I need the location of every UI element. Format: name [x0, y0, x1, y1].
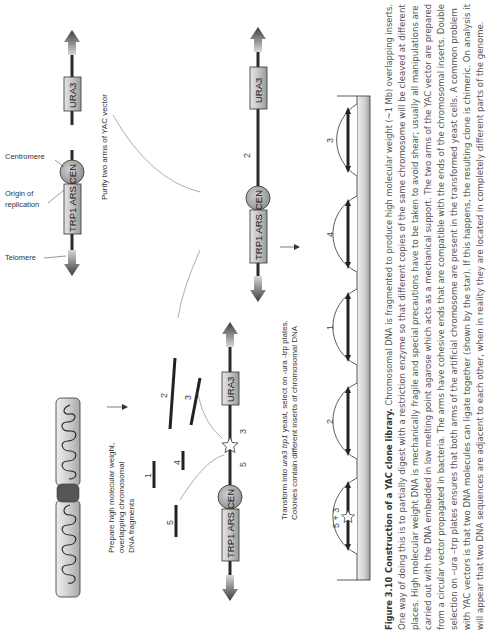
- svg-text:TRP1 ARS: TRP1 ARS: [253, 214, 264, 260]
- flow-curve: [198, 395, 222, 438]
- svg-text:3: 3: [238, 429, 248, 434]
- prepare-step-label: Prepare high molecular weight, overlappi…: [107, 443, 136, 553]
- colony: 4: [325, 196, 357, 272]
- caption-line-6: with YAC vectors is that two DNA molecul…: [462, 3, 472, 630]
- yac-vector-arms: URA3 CEN TRP1 ARS Centromere Origin of r…: [5, 30, 109, 276]
- caption-line-4: from a circular vector propagated in bac…: [436, 4, 446, 630]
- svg-text:Prepare high molecular weight,: Prepare high molecular weight,: [107, 443, 116, 553]
- svg-text:DNA fragments: DNA fragments: [127, 499, 136, 553]
- fragment-3: [191, 378, 200, 425]
- svg-text:4: 4: [172, 460, 182, 465]
- caption-line-7: will appear that two DNA sequences are a…: [475, 21, 485, 630]
- svg-text:2: 2: [159, 393, 169, 398]
- chromosome: [56, 398, 80, 597]
- flow-curve: [180, 455, 224, 500]
- colony-list: 3 4 1 2: [325, 104, 357, 554]
- svg-text:CEN: CEN: [253, 190, 264, 210]
- down-arrow-icon: [107, 404, 128, 410]
- transform-step-label: Transform into ura3 trp1 yeast, select o…: [280, 320, 299, 520]
- figure-caption: Figure 3.10Construction of a YAC clone l…: [384, 3, 485, 630]
- dna-fragments: 1 2 3 4 5: [143, 358, 200, 537]
- telomere-arrow-icon: [64, 30, 80, 55]
- trp1-ars-label: TRP1 ARS: [67, 186, 78, 232]
- svg-text:URA3: URA3: [225, 377, 236, 402]
- colony: 3: [325, 104, 357, 176]
- telomere-label: Telomere: [5, 253, 36, 262]
- telomere-arrow-icon: [222, 322, 238, 347]
- caption-line-2: places. High molecular weight DNA is mec…: [410, 6, 420, 631]
- recombinant-yac: URA3 2 CEN TRP1 ARS: [242, 27, 270, 302]
- colony: 2: [325, 383, 357, 459]
- svg-text:4: 4: [325, 232, 335, 237]
- colony: 1: [325, 289, 357, 365]
- svg-text:TRP1 ARS: TRP1 ARS: [225, 512, 236, 558]
- origin-label-1: Origin of: [5, 189, 34, 198]
- telomere-arrow-icon: [250, 276, 266, 302]
- flow-curve: [178, 250, 200, 318]
- caption-line-1: One way of doing this is to partially di…: [397, 4, 407, 630]
- svg-text:1: 1: [325, 325, 335, 330]
- centromere-label: Centromere: [5, 152, 45, 161]
- svg-text:5: 5: [238, 462, 248, 467]
- svg-text:Transform into ura3 trp1 yeast: Transform into ura3 trp1 yeast, select o…: [280, 320, 289, 520]
- caption-line-0: Figure 3.10Construction of a YAC clone l…: [384, 4, 394, 630]
- ligated-yac-chimeric: URA3 3 5 CEN TRP1 ARS: [218, 322, 248, 601]
- caption-line-3: carried out with the DNA embedded in low…: [423, 4, 433, 630]
- origin-label-2: replication: [5, 200, 39, 209]
- telomere-arrow-icon: [64, 250, 80, 276]
- svg-text:3: 3: [325, 138, 335, 143]
- svg-text:CEN: CEN: [225, 489, 236, 509]
- svg-text:3: 3: [183, 395, 193, 400]
- svg-text:overlapping chromosomal: overlapping chromosomal: [117, 461, 126, 553]
- purify-step-label: Purify two arms of YAC vector: [100, 94, 109, 200]
- flow-curve: [113, 115, 200, 192]
- caption-line-5: selection on –ura –trp plates ensures th…: [449, 8, 459, 630]
- cen-label: CEN: [67, 164, 78, 184]
- telomere-arrow-icon: [250, 27, 266, 52]
- ura3-label: URA3: [67, 83, 78, 108]
- yac-library-figure: URA3 CEN TRP1 ARS Centromere Origin of r…: [0, 0, 496, 632]
- svg-text:URA3: URA3: [253, 78, 264, 103]
- svg-text:Colonies contain different ins: Colonies contain different inserts of ch…: [290, 325, 299, 520]
- svg-text:5: 5: [165, 520, 175, 525]
- svg-text:2: 2: [242, 153, 252, 158]
- svg-text:2: 2: [325, 419, 335, 424]
- svg-text:1: 1: [143, 473, 153, 478]
- svg-text:5 + 3: 5 + 3: [331, 508, 341, 528]
- telomere-arrow-icon: [222, 575, 238, 601]
- down-arrow-icon: [280, 244, 300, 250]
- colony-chimeric: 5 + 3: [331, 478, 357, 554]
- fragment-2: [170, 358, 175, 429]
